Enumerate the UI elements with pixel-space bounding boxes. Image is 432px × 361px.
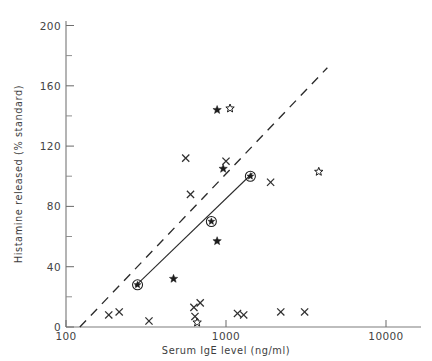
marker-star-open [315,167,323,175]
marker-star-filled [208,218,215,225]
marker-cross [116,308,123,315]
axes-group [66,21,421,327]
y-axis-minor-ticks [66,56,72,297]
trend-lines-layer [80,68,328,327]
marker-cross [267,179,274,186]
marker-star-filled [213,237,221,245]
marker-star-filled [219,164,227,172]
y-axis-title: Histamine released (% standard) [13,85,24,263]
marker-cross [145,317,152,324]
marker-circled-point [245,171,255,181]
x-axis-tick-labels: 100 1000 10000 [55,330,403,342]
marker-cross [240,311,247,318]
y-tick-label-160: 160 [40,80,61,92]
x-tick-label-100: 100 [55,330,76,342]
reference-line [80,68,328,327]
marker-cross [187,191,194,198]
marker-circled-point [206,216,216,226]
x-axis-ticks [66,320,386,327]
y-axis-tick-labels: 200 160 120 80 40 0 [40,20,61,334]
y-tick-label-120: 120 [40,140,61,152]
y-tick-label-80: 80 [47,200,61,212]
marker-circled-point [133,280,143,290]
marker-star-open [193,318,201,326]
regression-line [135,173,252,286]
plot-canvas: 200 160 120 80 40 0 100 1000 10000 Serum… [0,0,432,361]
y-tick-label-200: 200 [40,20,61,32]
data-markers-layer [105,104,323,326]
marker-cross [277,308,284,315]
marker-cross [197,299,204,306]
marker-cross [234,310,241,317]
marker-cross [190,304,197,311]
marker-cross [182,155,189,162]
marker-star-open [226,104,234,112]
scatter-plot-figure: 200 160 120 80 40 0 100 1000 10000 Serum… [0,0,432,361]
x-axis-title: Serum IgE level (ng/ml) [162,345,290,356]
y-tick-label-40: 40 [47,261,61,273]
marker-star-filled [213,106,221,114]
marker-cross [301,308,308,315]
x-tick-label-1000: 1000 [212,330,240,342]
marker-cross [105,311,112,318]
marker-cross [222,158,229,165]
marker-star-filled [169,274,177,282]
marker-star-filled [247,173,254,180]
x-tick-label-10000: 10000 [368,330,403,342]
